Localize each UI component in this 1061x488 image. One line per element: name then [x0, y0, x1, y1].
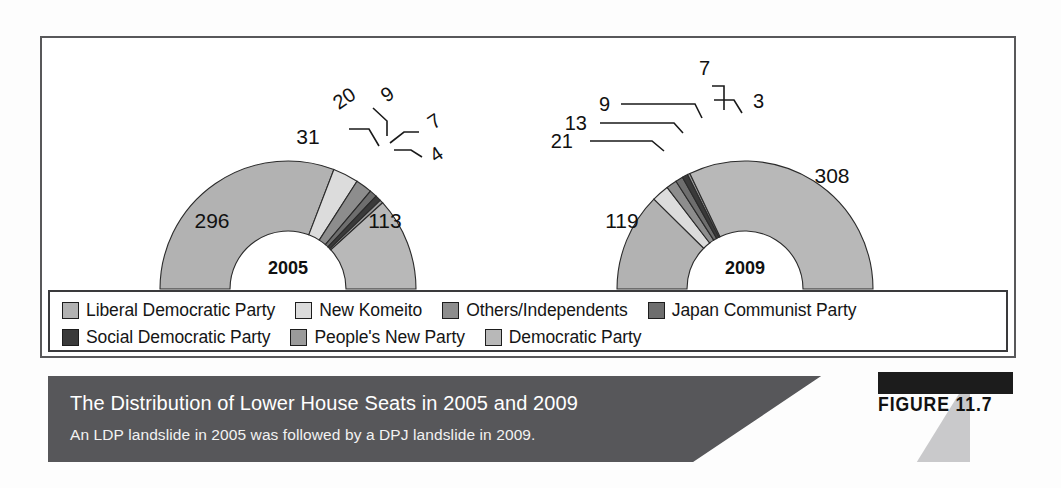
leader-line-komeito-2009: [590, 141, 664, 151]
slice-label-pnp-2009: 3: [753, 90, 764, 112]
center-label-2009: 2009: [725, 258, 765, 278]
slice-label-jcp-2005: 9: [376, 82, 398, 106]
legend-row-2: Social Democratic Party People's New Par…: [62, 324, 996, 351]
slice-label-jcp-2009: 9: [599, 93, 610, 115]
figure-badge-bar: [878, 372, 1013, 394]
slice-label-ldp-2009: 119: [605, 209, 638, 232]
chart-2009: 119 308 2009 21 13 9 7 3: [551, 57, 873, 289]
legend-item-japan-communist-party[interactable]: Japan Communist Party: [648, 300, 857, 321]
leader-line-sdp-2005: [390, 132, 419, 143]
slice-label-dpj-2009: 308: [814, 164, 849, 187]
legend-row-1: Liberal Democratic Party New Komeito Oth…: [62, 297, 996, 324]
slice-label-pnp-2005: 4: [425, 142, 447, 166]
legend-label-social-democratic-party: Social Democratic Party: [86, 327, 270, 348]
slice-label-ldp-2005: 296: [194, 209, 229, 232]
legend-label-new-komeito: New Komeito: [319, 300, 422, 321]
legend-swatch-new-komeito: [295, 302, 312, 319]
figure-subtitle: An LDP landslide in 2005 was followed by…: [70, 426, 535, 444]
leader-line-jcp-2005: [373, 108, 387, 136]
legend-label-democratic-party: Democratic Party: [509, 327, 642, 348]
legend-swatch-liberal-democratic-party: [62, 302, 79, 319]
legend-swatch-democratic-party: [485, 329, 502, 346]
legend-label-japan-communist-party: Japan Communist Party: [672, 300, 857, 321]
slice-label-others-2009: 13: [565, 112, 587, 134]
caption-inner: The Distribution of Lower House Seats in…: [48, 376, 963, 462]
leader-line-others-2009: [600, 123, 683, 133]
legend-swatch-japan-communist-party: [648, 302, 665, 319]
caption-bar: The Distribution of Lower House Seats in…: [48, 376, 963, 462]
slice-label-others-2005: 20: [329, 83, 360, 114]
center-label-2005: 2005: [268, 258, 308, 278]
legend-item-social-democratic-party[interactable]: Social Democratic Party: [62, 327, 270, 348]
slice-label-dpj-2005: 113: [368, 209, 401, 232]
slice-label-sdp-2005: 7: [423, 109, 445, 133]
legend-swatch-peoples-new-party: [290, 329, 307, 346]
leader-line-sdp-2009: [712, 86, 724, 110]
leader-line-others-2005: [349, 129, 379, 146]
legend-label-liberal-democratic-party: Liberal Democratic Party: [86, 300, 275, 321]
leader-line-pnp-2005: [394, 150, 422, 157]
legend: Liberal Democratic Party New Komeito Oth…: [48, 290, 1008, 352]
leader-line-pnp-2009: [714, 100, 742, 113]
chart-2005: 296 31 113 2005 20 9 7 4: [160, 82, 447, 289]
legend-item-peoples-new-party[interactable]: People's New Party: [290, 327, 464, 348]
figure-number-label: FIGURE 11.7: [878, 393, 1001, 416]
leader-line-jcp-2009: [621, 104, 702, 118]
legend-item-new-komeito[interactable]: New Komeito: [295, 300, 422, 321]
legend-label-others-independents: Others/Independents: [466, 300, 628, 321]
legend-item-democratic-party[interactable]: Democratic Party: [485, 327, 642, 348]
legend-item-others-independents[interactable]: Others/Independents: [442, 300, 628, 321]
slice-label-komeito-2005: 31: [296, 125, 319, 148]
figure-title: The Distribution of Lower House Seats in…: [70, 392, 578, 415]
legend-item-liberal-democratic-party[interactable]: Liberal Democratic Party: [62, 300, 275, 321]
legend-swatch-social-democratic-party: [62, 329, 79, 346]
slice-label-sdp-2009: 7: [699, 57, 710, 79]
legend-label-peoples-new-party: People's New Party: [314, 327, 464, 348]
figure-root: 296 31 113 2005 20 9 7 4: [0, 0, 1061, 488]
legend-swatch-others-independents: [442, 302, 459, 319]
